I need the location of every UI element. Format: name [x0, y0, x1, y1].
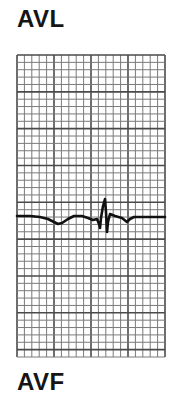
- ecg-grid: [17, 55, 165, 357]
- lead-label-avf: AVF: [17, 370, 65, 394]
- ecg-strip: [0, 0, 178, 396]
